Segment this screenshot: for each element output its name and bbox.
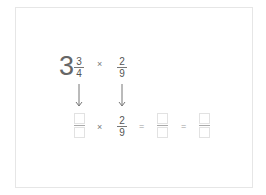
down-arrow-icon <box>117 84 127 108</box>
equals-sign: = <box>181 121 186 131</box>
answer-box-simplified[interactable] <box>199 113 210 138</box>
denominator-input[interactable] <box>199 127 210 138</box>
down-arrow-icon <box>74 84 84 108</box>
answer-box-product[interactable] <box>157 113 168 138</box>
numerator-input[interactable] <box>74 113 85 124</box>
numerator: 3 <box>72 56 86 67</box>
equals-sign: = <box>139 121 144 131</box>
numerator-input[interactable] <box>157 113 168 124</box>
denominator: 9 <box>115 68 129 79</box>
denominator-input[interactable] <box>157 127 168 138</box>
numerator: 2 <box>115 56 129 67</box>
fraction-two-ninths: 2 9 <box>115 56 129 79</box>
denominator: 9 <box>115 127 129 138</box>
numerator: 2 <box>115 115 129 126</box>
problem-frame <box>15 7 253 188</box>
fraction-bar <box>157 125 168 126</box>
multiply-sign: × <box>97 122 102 132</box>
denominator: 4 <box>72 68 86 79</box>
multiply-sign: × <box>97 59 102 69</box>
fraction-bar <box>74 125 85 126</box>
fraction-bar <box>199 125 210 126</box>
fraction-two-ninths: 2 9 <box>115 115 129 138</box>
mixed-number-fraction: 3 4 <box>72 56 86 79</box>
numerator-input[interactable] <box>199 113 210 124</box>
answer-box-improper-fraction[interactable] <box>74 113 85 138</box>
denominator-input[interactable] <box>74 127 85 138</box>
